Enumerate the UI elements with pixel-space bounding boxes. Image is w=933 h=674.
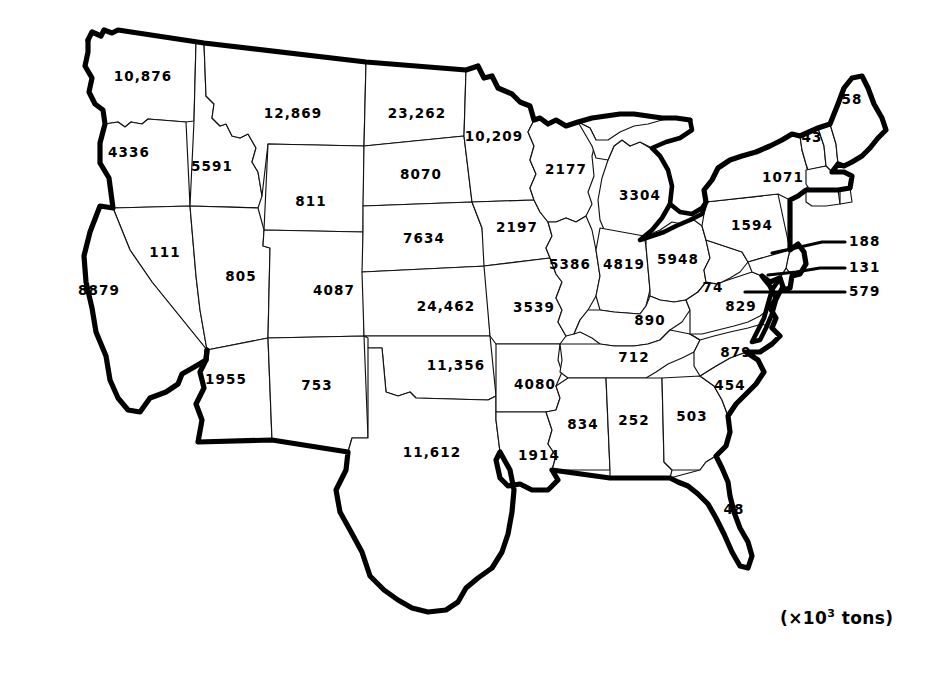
state-shape-wyoming	[264, 144, 364, 232]
units-legend: (×103 tons)	[780, 608, 893, 628]
state-shape-louisiana	[496, 412, 558, 490]
callout-value-newjersey: 188	[849, 235, 880, 249]
state-shape-southdakota	[363, 136, 472, 206]
state-shape-maine	[830, 76, 886, 166]
us-map-svg	[0, 0, 933, 674]
state-shape-arkansas	[496, 344, 562, 412]
units-legend-prefix: (×10	[780, 608, 827, 628]
us-value-map: 10,876 4336 5591 12,869 811 111 8879 805…	[0, 0, 933, 674]
state-shape-kansas	[362, 266, 490, 336]
callout-value-maryland: 579	[849, 285, 880, 299]
state-shape-colorado	[263, 230, 364, 338]
units-legend-suffix: tons)	[835, 608, 893, 628]
state-shape-nebraska	[362, 202, 486, 272]
state-shape-missouri	[484, 258, 566, 344]
callout-value-delaware: 131	[849, 261, 880, 275]
state-shape-newmexico	[268, 336, 368, 452]
state-shape-northdakota	[364, 62, 466, 146]
state-boundaries-layer	[84, 30, 886, 612]
